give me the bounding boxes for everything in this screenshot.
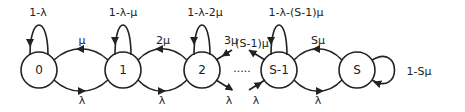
edge-2-to-1 xyxy=(138,49,187,60)
ellipsis: ..... xyxy=(233,63,250,74)
state-0-label: 0 xyxy=(35,64,43,76)
self-loop-2 xyxy=(194,25,210,55)
edge-s-minus-1-to-s-minus-2 xyxy=(249,50,265,60)
state-s-label: S xyxy=(353,64,361,76)
edge-1-to-0-label: μ xyxy=(79,35,86,46)
self-loop-s-minus-1-label: 1-λ-(S-1)μ xyxy=(269,7,324,18)
state-s-minus-1-label: S-1 xyxy=(269,64,289,76)
edge-1-to-0 xyxy=(54,49,108,60)
edge-s-minus-2-to-s-minus-1-label: λ xyxy=(253,95,260,106)
edge-s-to-s-minus-1-label: Sμ xyxy=(311,35,325,46)
edge-s-minus-1-to-s-label: λ xyxy=(315,95,322,106)
edge-s-minus-1-to-s-minus-2-label: (S-1)μ xyxy=(235,38,269,49)
self-loop-s-label: 1-Sμ xyxy=(407,66,432,77)
state-1-label: 1 xyxy=(119,64,127,76)
edge-0-to-1 xyxy=(54,80,108,91)
edge-2-to-1-label: 2μ xyxy=(156,35,170,46)
edge-3-to-2 xyxy=(216,50,232,60)
self-loop-1 xyxy=(115,25,131,55)
edge-0-to-1-label: λ xyxy=(79,95,86,106)
self-loop-0-label: 1-λ xyxy=(29,7,46,18)
self-loop-2-label: 1-λ-2μ xyxy=(187,7,222,18)
edge-1-to-2 xyxy=(138,80,187,91)
edge-2-to-3-label: λ xyxy=(226,95,233,106)
edge-s-minus-1-to-s xyxy=(294,80,342,91)
self-loop-s-minus-1 xyxy=(271,25,287,55)
edge-s-to-s-minus-1 xyxy=(294,49,342,60)
self-loop-1-label: 1-λ-μ xyxy=(109,7,137,18)
state-2-label: 2 xyxy=(198,64,206,76)
self-loop-0 xyxy=(30,25,48,55)
edge-1-to-2-label: λ xyxy=(159,95,166,106)
